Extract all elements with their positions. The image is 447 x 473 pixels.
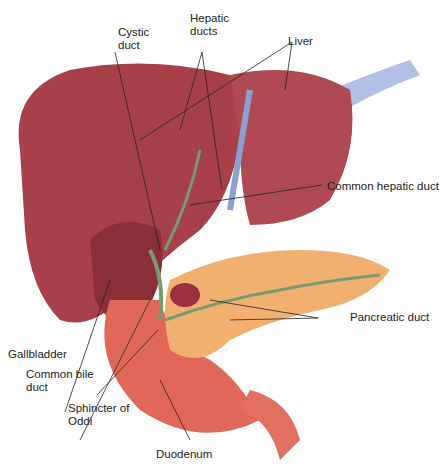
label-line: duct xyxy=(118,39,149,52)
label-pancreatic-duct: Pancreatic duct xyxy=(350,311,429,324)
label-line: Sphincter of xyxy=(68,402,129,415)
label-gallbladder: Gallbladder xyxy=(8,348,67,361)
label-line: Cystic xyxy=(118,26,149,39)
label-common-hepatic-duct: Common hepatic duct xyxy=(327,180,439,193)
label-common-bile-duct: Common bile duct xyxy=(26,368,94,394)
label-line: Oddi xyxy=(68,415,129,428)
label-line: ducts xyxy=(190,25,229,38)
label-line: Common bile xyxy=(26,368,94,381)
label-sphincter-of-oddi: Sphincter of Oddi xyxy=(68,402,129,428)
label-liver: Liver xyxy=(288,35,313,48)
label-hepatic-ducts: Hepatic ducts xyxy=(190,12,229,38)
label-cystic-duct: Cystic duct xyxy=(118,26,149,52)
label-line: Hepatic xyxy=(190,12,229,25)
label-duodenum: Duodenum xyxy=(156,448,212,461)
label-line: duct xyxy=(26,381,94,394)
